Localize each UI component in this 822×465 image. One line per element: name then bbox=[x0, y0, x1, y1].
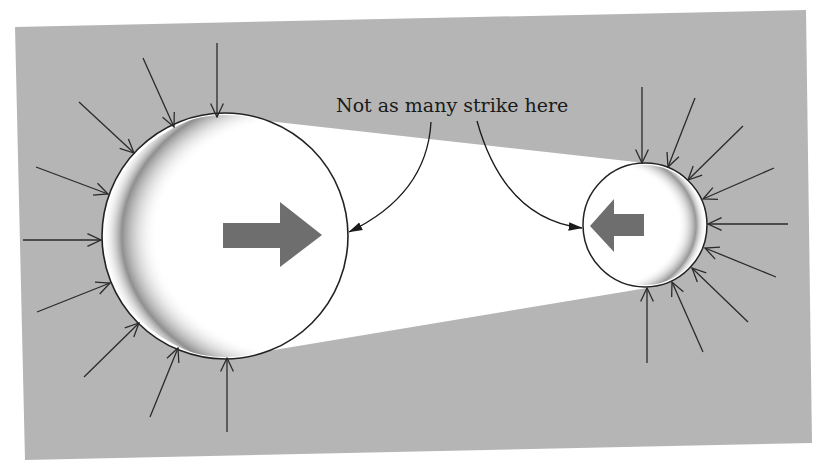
diagram-canvas: Not as many strike here bbox=[0, 0, 822, 465]
annotation-label: Not as many strike here bbox=[336, 94, 568, 116]
